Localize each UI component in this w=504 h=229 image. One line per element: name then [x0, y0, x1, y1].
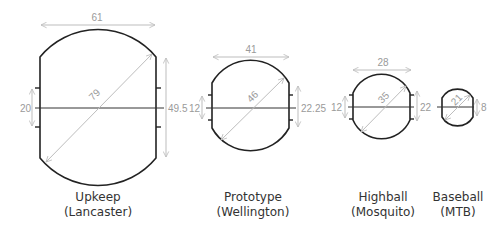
prototype-name: Prototype: [224, 190, 282, 204]
prototype-left-value: 12: [189, 103, 201, 114]
baseball-name: Baseball: [433, 190, 484, 204]
prototype-diagonal-value: 46: [245, 88, 261, 104]
bomb-highball: 28 35 12 22 Highball (Mosquito): [331, 57, 432, 219]
prototype-aircraft: (Wellington): [217, 205, 290, 219]
baseball-diagonal-value: 21: [449, 91, 465, 107]
upkeep-right-value: 49.5: [168, 103, 188, 114]
upkeep-width-value: 61: [91, 12, 103, 23]
prototype-width-value: 41: [245, 44, 257, 55]
bomb-baseball: 21 8 Baseball (MTB): [433, 89, 487, 219]
highball-aircraft: (Mosquito): [351, 205, 415, 219]
upkeep-left-value: 20: [20, 103, 32, 114]
bomb-upkeep: 61 79 20 49.5 Upkeep (Lancaster): [20, 12, 188, 219]
prototype-diagonal-dimension: [221, 78, 284, 140]
bomb-prototype: 41 46 12 22.25 Prototype (Wellington): [189, 44, 327, 219]
highball-width-value: 28: [377, 57, 389, 68]
upkeep-diagonal-value: 79: [87, 86, 103, 102]
highball-name: Highball: [358, 190, 407, 204]
upkeep-aircraft: (Lancaster): [64, 205, 132, 219]
upkeep-name: Upkeep: [75, 190, 120, 204]
bouncing-bomb-comparison-diagram: 61 79 20 49.5 Upkeep (Lancaster) 41 46 1…: [0, 0, 504, 229]
baseball-aircraft: (MTB): [440, 205, 475, 219]
prototype-right-value: 22.25: [301, 103, 326, 114]
highball-left-value: 12: [331, 102, 343, 113]
highball-right-value: 22: [420, 102, 432, 113]
baseball-right-value: 8: [481, 102, 487, 113]
